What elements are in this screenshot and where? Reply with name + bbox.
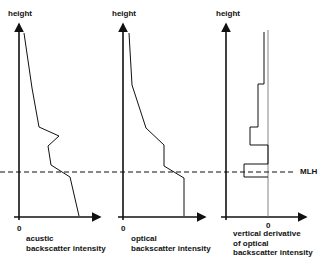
x-axis-label: vertical derivative of optical backscatt… (233, 229, 313, 258)
panel-optical (118, 24, 205, 220)
y-axis-label: height (112, 9, 136, 19)
x-axis-label-line: backscatter intensity (131, 244, 211, 254)
diagram-canvas (0, 0, 320, 265)
panel-derivative (221, 24, 306, 220)
mlh-label: MLH (300, 167, 317, 177)
optical-profile-curve (129, 33, 184, 216)
x-axis-label-line: backscatter intensity (233, 248, 313, 258)
x-axis-label: acustic backscatter intensity (26, 234, 106, 253)
zero-label: 0 (121, 224, 125, 234)
x-axis-label-line: optical (131, 234, 211, 244)
x-axis-label-line: acustic (26, 234, 106, 244)
x-axis-label-line: of optical (233, 239, 313, 249)
y-axis-label: height (8, 9, 32, 19)
x-axis-label: optical backscatter intensity (131, 234, 211, 253)
derivative-step-curve (244, 32, 268, 177)
acoustic-profile-curve (24, 33, 79, 216)
zero-label: 0 (17, 224, 21, 234)
x-axis-label-line: backscatter intensity (26, 244, 106, 254)
panel-acoustic (14, 24, 100, 220)
y-axis-label: height (216, 9, 240, 19)
x-axis-label-line: vertical derivative (233, 229, 313, 239)
